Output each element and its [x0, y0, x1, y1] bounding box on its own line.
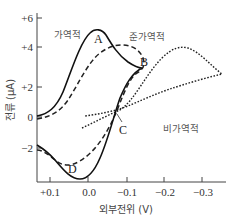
- y-tick-label: 0: [28, 111, 34, 123]
- quasi-reversible-label: 준가역적: [129, 31, 165, 42]
- y-tick-label: +6: [21, 12, 33, 24]
- x-axis-title: 외부전위 (V): [99, 203, 153, 215]
- quasi-reversible-curve: [37, 45, 144, 165]
- y-axis-title: 전류 (μA): [5, 79, 16, 121]
- x-tick-label: −0.1: [117, 186, 137, 198]
- point-b-label: B: [140, 55, 148, 69]
- x-tick-labels: +0.1 0.0 −0.1 −0.2 −0.3: [40, 186, 213, 198]
- x-tick-label: +0.1: [40, 186, 60, 198]
- y-tick-labels: +6 +4 +2 0 −2: [21, 12, 33, 154]
- irreversible-curve: [82, 47, 222, 128]
- c-leader-line: [117, 114, 122, 122]
- x-tick-label: 0.0: [82, 186, 96, 198]
- irreversible-label: 비가역적: [163, 123, 199, 134]
- x-tick-label: −0.3: [193, 186, 213, 198]
- point-d-label: D: [68, 162, 77, 176]
- point-a-label: A: [94, 32, 103, 46]
- y-tick-label: +4: [21, 41, 33, 53]
- reversible-label: 가역적: [54, 29, 81, 40]
- y-tick-label: −2: [21, 142, 33, 154]
- y-tick-label: +2: [21, 81, 33, 93]
- cyclic-voltammogram-chart: +6 +4 +2 0 −2 +0.1 0.0 −0.1 −0.2 −0.3 외부…: [0, 0, 233, 224]
- reversible-curve: [37, 30, 142, 179]
- x-tick-label: −0.2: [155, 186, 175, 198]
- point-c-label: C: [119, 123, 127, 137]
